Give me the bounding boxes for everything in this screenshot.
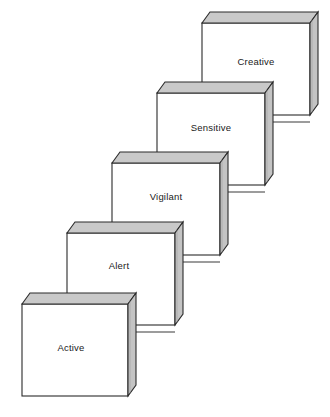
diagram-canvas: CreativeSensitiveVigilantAlertActive	[0, 0, 330, 417]
block-active-label: Active	[57, 342, 84, 353]
block-vigilant-top-face	[112, 152, 228, 163]
block-alert-side-face	[175, 222, 183, 325]
block-sensitive-top-face	[157, 82, 273, 93]
block-active[interactable]: Active	[22, 293, 136, 396]
block-active-side-face	[128, 293, 136, 396]
block-creative-top-face	[202, 12, 318, 23]
block-sensitive-side-face	[265, 82, 273, 185]
blocks-layer: CreativeSensitiveVigilantAlertActive	[22, 12, 318, 396]
ascending-blocks-diagram: CreativeSensitiveVigilantAlertActive	[0, 0, 330, 417]
block-vigilant-label: Vigilant	[150, 191, 183, 202]
block-creative-side-face	[310, 12, 318, 115]
block-sensitive-label: Sensitive	[191, 122, 231, 133]
block-alert-label: Alert	[109, 260, 130, 271]
block-active-top-face	[22, 293, 136, 304]
block-creative-label: Creative	[238, 56, 275, 67]
block-vigilant-side-face	[220, 152, 228, 255]
block-alert-top-face	[67, 222, 183, 233]
